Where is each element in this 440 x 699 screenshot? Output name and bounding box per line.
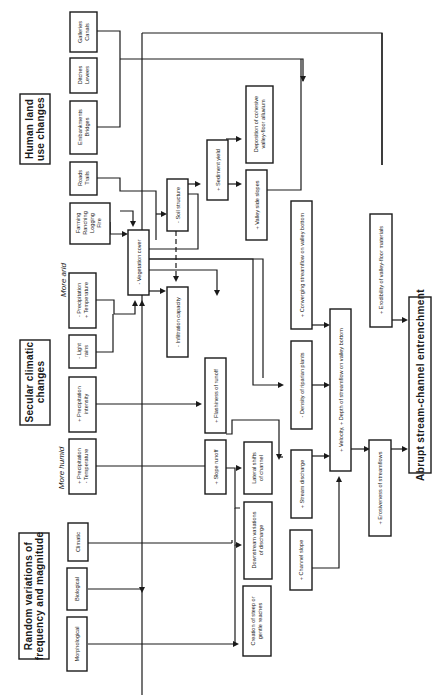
box-farming-ranching-logging-fire: Farming Ranching Logging Fire <box>70 203 110 244</box>
text-deposition-line2: valley-floor alluvium <box>260 99 266 148</box>
text-sediment-yield: + Sediment yield <box>215 149 221 191</box>
text-fire: Fire <box>96 218 102 228</box>
box-deposition-alluvium: Deposition of cohesive valley-floor allu… <box>246 86 273 163</box>
box-erodibility: + Erodibility of valley-floor materials <box>370 214 392 327</box>
box-flashiness-runoff: + Flashiness of runoff <box>205 358 226 433</box>
box-morphological: Morphological <box>67 617 87 671</box>
header-human-line1: Human land <box>24 99 35 159</box>
label-more-arid: More arid <box>59 263 68 297</box>
text-plus-precipitation: + Precipitation <box>76 386 82 422</box>
text-plus-precipitation-humid: + Precipitation <box>76 448 82 484</box>
text-steep-line2: gentle reaches <box>257 602 263 639</box>
box-lateral-shifts: Lateral shifts of channel <box>244 442 272 494</box>
box-outcome-entrenchment: Abrupt stream-channel entrenchment <box>409 289 431 481</box>
text-vegetation-cover: - Vegetation cover <box>136 239 142 284</box>
text-velocity-depth: + Velocity, + Depth of streamflow on val… <box>338 328 344 452</box>
text-intensity: intensity <box>83 394 89 415</box>
box-climatic: Climatic <box>68 523 88 561</box>
box-velocity-depth: + Velocity, + Depth of streamflow on val… <box>330 309 351 471</box>
text-morphological: Morphological <box>74 627 80 662</box>
label-more-humid: More humid <box>57 446 66 489</box>
text-ditches: Ditches <box>77 65 83 84</box>
text-biological: Biological <box>74 577 80 601</box>
header-random-line2: frequency and magnitude <box>34 532 45 661</box>
text-downstream-line1: Downstream variations <box>251 511 257 568</box>
box-vegetation-cover: - Vegetation cover <box>128 230 149 295</box>
box-stream-discharge: + Stream discharge <box>291 450 312 518</box>
header-random-variations: Random variations of frequency and magni… <box>19 532 49 661</box>
text-embankments: Embankments <box>77 109 83 145</box>
text-trails: Trails <box>84 171 90 185</box>
box-infiltration-capacity: - Infiltration capacity <box>167 287 188 357</box>
text-stream-discharge: + Stream discharge <box>299 460 305 509</box>
box-biological: Biological <box>67 568 87 610</box>
text-lateral-shifts-line2: of channel <box>258 455 264 481</box>
box-downstream-variations: Downstream variations of discharge <box>244 502 272 579</box>
text-slope-runoff: + Slope runoff <box>213 449 219 484</box>
box-slope-runoff: + Slope runoff <box>205 440 226 494</box>
text-logging: Logging <box>89 213 95 233</box>
text-minus-temperature: - Temperature <box>83 449 89 484</box>
text-channel-slope: + Channel slope <box>298 540 304 581</box>
text-soil-structure: - Soil structure <box>175 187 181 223</box>
box-soil-structure: - Soil structure <box>167 179 188 231</box>
text-steep-line1: Creation of steep or <box>250 596 256 645</box>
header-secular-line2: changes <box>35 361 46 404</box>
box-sediment-yield: + Sediment yield <box>207 140 228 200</box>
text-canals: Canals <box>84 23 90 41</box>
text-plus-temperature: + Temperature <box>83 282 89 318</box>
text-infiltration-capacity: - Infiltration capacity <box>175 297 181 347</box>
box-galleries-canals: Galleries Canals <box>70 12 97 52</box>
text-bridges: Bridges <box>84 117 90 136</box>
text-outcome: Abrupt stream-channel entrenchment <box>415 289 426 481</box>
header-human-land-use: Human land use changes <box>20 94 50 164</box>
box-riparian-plants: - Density of riparian plants <box>291 341 312 429</box>
box-channel-slope: + Channel slope <box>290 530 312 590</box>
box-steep-gentle-reaches: Creation of steep or gentle reaches <box>243 586 271 656</box>
box-ditches-levees: Ditches Levees <box>70 58 97 93</box>
text-rains: rains <box>83 345 89 357</box>
text-converging-streamflow: + Converging streamflow on valley bottom <box>299 213 305 318</box>
text-minus-precipitation: - Precipitation <box>76 283 82 317</box>
text-levees: Levees <box>84 66 90 84</box>
text-galleries: Galleries <box>77 21 83 43</box>
box-precipitation-intensity: + Precipitation intensity <box>69 377 96 432</box>
text-climatic: Climatic <box>75 532 81 552</box>
header-random-line1: Random variations of <box>23 542 34 651</box>
box-light-rains: - Light rains <box>69 335 96 368</box>
text-erodibility: + Erodibility of valley-floor materials <box>378 226 384 314</box>
text-roads: Roads <box>77 170 83 186</box>
text-downstream-line2: of discharge <box>258 525 264 555</box>
box-erosiveness: + Erosiveness of streamflows <box>369 440 391 536</box>
text-ranching: Ranching <box>82 211 88 235</box>
text-lateral-shifts-line1: Lateral shifts <box>251 452 257 484</box>
box-embankments-bridges: Embankments Bridges <box>70 101 97 154</box>
text-erosiveness: + Erosiveness of streamflows <box>377 451 383 524</box>
text-farming: Farming <box>75 213 81 234</box>
text-deposition-line1: Deposition of cohesive <box>253 96 259 152</box>
text-flashiness: + Flashiness of runoff <box>213 369 219 423</box>
header-secular-line1: Secular climatic <box>24 341 35 422</box>
text-riparian-plants: - Density of riparian plants <box>299 352 305 417</box>
box-valley-side-slopes: + Valley side slopes <box>246 170 267 240</box>
box-humid-precipitation-temperature: + Precipitation - Temperature <box>69 439 96 494</box>
header-secular-climatic: Secular climatic changes <box>20 340 50 425</box>
text-valley-side-slopes: + Valley side slopes <box>254 180 260 229</box>
box-roads-trails: Roads Trails <box>70 162 97 195</box>
header-human-line2: use changes <box>35 97 46 161</box>
text-minus-light: - Light <box>76 343 82 359</box>
box-arid-precipitation-temperature: - Precipitation + Temperature <box>69 273 96 328</box>
box-converging-streamflow: + Converging streamflow on valley bottom <box>291 201 312 329</box>
causal-flow-diagram: Human land use changes Secular climatic … <box>0 0 440 699</box>
